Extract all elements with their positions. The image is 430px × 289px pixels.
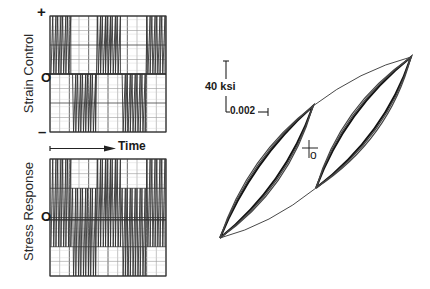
left-hysteresis-loop: [220, 106, 313, 238]
right-hysteresis-loop: [316, 57, 411, 188]
strain-zero-label: O: [41, 70, 51, 85]
stress-zero-label: O: [41, 209, 51, 224]
strain-minus-label: –: [38, 123, 46, 140]
stress-scale-label: 40 ksi: [205, 80, 236, 92]
figure-canvas: [0, 0, 430, 289]
strain-plus-label: +: [37, 3, 46, 20]
strain-scale-label: 0.002: [230, 105, 255, 116]
right-hysteresis-loop: [316, 57, 411, 188]
origin-label: o: [310, 148, 317, 162]
left-hysteresis-loop: [220, 106, 313, 238]
envelope-lower-curve: [220, 188, 316, 238]
right-hysteresis-loop: [316, 57, 411, 188]
time-arrow-head: [104, 146, 116, 152]
stress-axis-label: Stress Response: [21, 156, 36, 268]
time-axis-label: Time: [118, 139, 146, 153]
left-hysteresis-loop: [220, 106, 313, 238]
strain-axis-label: Strain Control: [21, 24, 36, 124]
